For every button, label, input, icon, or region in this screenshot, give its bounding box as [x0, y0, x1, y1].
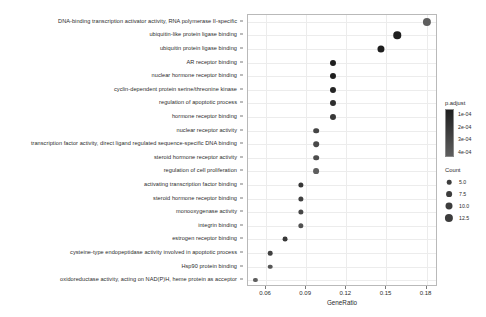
y-axis-tick: [240, 129, 243, 130]
y-axis-tick-label: hormone receptor binding: [172, 113, 237, 119]
y-axis-tick: [240, 184, 243, 185]
size-legend-label: 10.0: [459, 203, 469, 209]
gridline-horizontal: [248, 253, 436, 254]
data-point: [268, 251, 273, 256]
gridline-horizontal: [248, 117, 436, 118]
gridline-horizontal: [248, 90, 436, 91]
x-axis-tick: [385, 286, 386, 289]
x-axis-tick: [305, 286, 306, 289]
size-legend-label: 12.5: [459, 215, 469, 221]
gridline-horizontal: [248, 226, 436, 227]
y-axis-tick-label: nuclear hormone receptor binding: [152, 72, 237, 78]
size-legend-item: 10.0: [444, 200, 486, 212]
y-axis-labels: DNA-binding transcription activator acti…: [0, 14, 243, 286]
y-axis-tick-label: steroid hormone receptor activity: [154, 154, 237, 160]
data-point: [313, 168, 319, 174]
gridline-horizontal: [248, 35, 436, 36]
x-axis-tick-label: 0.09: [299, 290, 311, 296]
y-axis-tick: [240, 170, 243, 171]
data-point: [313, 155, 319, 161]
gridline-vertical: [386, 15, 387, 285]
y-axis-tick-label: Hsp90 protein binding: [181, 263, 237, 269]
data-point: [313, 128, 319, 134]
x-axis-tick-label: 0.15: [380, 290, 392, 296]
y-axis-tick: [240, 197, 243, 198]
y-axis-tick-label: steroid hormone receptor binding: [153, 195, 237, 201]
gridline-horizontal: [248, 22, 436, 23]
y-axis-tick: [240, 102, 243, 103]
gridline-horizontal: [248, 158, 436, 159]
gridline-vertical: [266, 15, 267, 285]
y-axis-tick: [240, 116, 243, 117]
gridline-vertical: [346, 15, 347, 285]
y-axis-tick: [240, 20, 243, 21]
data-point: [298, 210, 303, 215]
y-axis-tick-label: activating transcription factor binding: [144, 181, 237, 187]
x-axis-title: GeneRatio: [247, 299, 437, 306]
data-point: [330, 73, 336, 79]
x-axis-tick-label: 0.18: [420, 290, 432, 296]
x-axis-tick: [265, 286, 266, 289]
y-axis-tick-label: transcription factor activity, direct li…: [31, 140, 237, 146]
legend-area: p.adjust 1e-042e-043e-044e-04 Count 5.07…: [444, 100, 486, 224]
gridline-horizontal: [248, 199, 436, 200]
gridline-horizontal: [248, 280, 436, 281]
gridline-horizontal: [248, 76, 436, 77]
gridline-horizontal: [248, 185, 436, 186]
y-axis-tick-label: DNA-binding transcription activator acti…: [58, 18, 237, 24]
y-axis-tick-label: cysteine-type endopeptidase activity inv…: [70, 249, 237, 255]
dotplot-figure: DNA-binding transcription activator acti…: [0, 0, 486, 317]
data-point: [298, 196, 303, 201]
size-legend-label: 5.0: [459, 179, 466, 185]
x-axis-tick: [426, 286, 427, 289]
y-axis-tick-label: regulation of cell proliferation: [164, 167, 237, 173]
y-axis-tick: [240, 48, 243, 49]
y-axis-tick-label: regulation of apoptotic process: [159, 99, 237, 105]
colorbar-tick-label: 2e-04: [458, 124, 471, 130]
y-axis-tick-label: ubiquitin protein ligase binding: [160, 45, 237, 51]
y-axis-tick: [240, 156, 243, 157]
y-axis-tick: [240, 34, 243, 35]
y-axis-tick-label: monooxygenase activity: [176, 208, 237, 214]
data-point: [330, 100, 336, 106]
y-axis-tick: [240, 61, 243, 62]
gridline-horizontal: [248, 144, 436, 145]
color-legend: 1e-042e-043e-044e-04: [444, 109, 484, 157]
gridline-horizontal: [248, 239, 436, 240]
size-legend: Count 5.07.510.012.5: [444, 167, 486, 224]
y-axis-tick-label: integrin binding: [198, 222, 237, 228]
y-axis-tick-label: estrogen receptor binding: [172, 235, 237, 241]
size-legend-label: 7.5: [459, 191, 466, 197]
data-point: [393, 32, 400, 39]
size-legend-item: 12.5: [444, 212, 486, 224]
data-point: [378, 45, 385, 52]
size-legend-title: Count: [445, 167, 486, 173]
data-point: [423, 18, 431, 26]
gridline-horizontal: [248, 267, 436, 268]
y-axis-tick: [240, 238, 243, 239]
colorbar-tick-label: 4e-04: [458, 149, 471, 155]
x-axis-tick: [345, 286, 346, 289]
size-legend-dot: [446, 191, 452, 197]
gridline-horizontal: [248, 103, 436, 104]
y-axis-tick: [240, 265, 243, 266]
data-point: [253, 278, 257, 282]
data-point: [330, 60, 336, 66]
y-axis-tick: [240, 224, 243, 225]
size-legend-dot: [445, 214, 453, 222]
gridline-horizontal: [248, 131, 436, 132]
gridline-horizontal: [248, 212, 436, 213]
colorbar-tick-label: 1e-04: [458, 111, 471, 117]
y-axis-tick: [240, 143, 243, 144]
size-legend-dot: [447, 180, 452, 185]
gridline-horizontal: [248, 49, 436, 50]
data-point: [283, 237, 288, 242]
gridline-horizontal: [248, 63, 436, 64]
data-point: [298, 182, 303, 187]
gridline-vertical: [427, 15, 428, 285]
y-axis-tick-label: ubiquitin-like protein ligase binding: [149, 31, 237, 37]
y-axis-tick: [240, 75, 243, 76]
gridline-vertical: [306, 15, 307, 285]
x-axis-tick-label: 0.06: [259, 290, 271, 296]
y-axis-tick: [240, 211, 243, 212]
